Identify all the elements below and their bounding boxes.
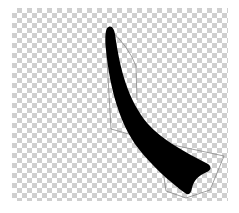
vector-artwork	[0, 0, 239, 213]
horn-shape[interactable]	[105, 26, 210, 194]
